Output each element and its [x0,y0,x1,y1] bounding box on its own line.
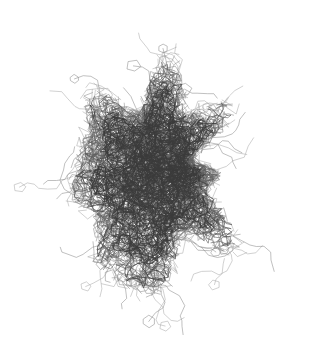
molecular-figure [0,0,310,357]
molecule-wireframe-canvas [0,0,310,357]
